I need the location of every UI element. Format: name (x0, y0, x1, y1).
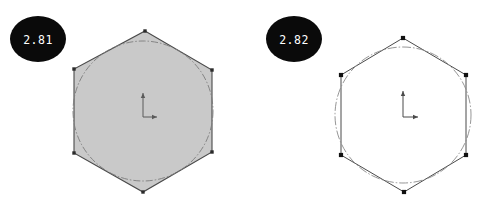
hexagon-vertex-marker (464, 73, 468, 77)
badge-label-right: 2.82 (279, 33, 309, 47)
hexagon-vertex-marker (72, 67, 75, 70)
panel-right-canvas: 2.82 (241, 0, 482, 208)
hexagon-vertex-marker (401, 36, 405, 40)
orientation-axes-right (401, 91, 418, 119)
axis-arrowhead (413, 115, 418, 119)
hexagon-vertex-marker (72, 151, 75, 154)
badge-label-left: 2.81 (23, 33, 53, 47)
hexagon-vertex-marker (141, 190, 144, 193)
hexagon-vertex-marker (339, 153, 343, 157)
hexagon-vertex-marker (464, 153, 468, 157)
panel-right: 2.82 (241, 0, 482, 208)
hexagon-vertex-marker (143, 29, 146, 32)
hexagon-vertex-marker (402, 190, 406, 194)
panel-left-canvas: 2.81 (0, 0, 241, 208)
hexagon-vertex-marker (210, 68, 213, 71)
axis-arrowhead (401, 91, 405, 96)
hexagon-vertex-marker (339, 73, 343, 77)
figure-root: 2.81 2.82 (0, 0, 482, 208)
panel-left: 2.81 (0, 0, 241, 208)
hexagon-vertex-marker (210, 150, 213, 153)
